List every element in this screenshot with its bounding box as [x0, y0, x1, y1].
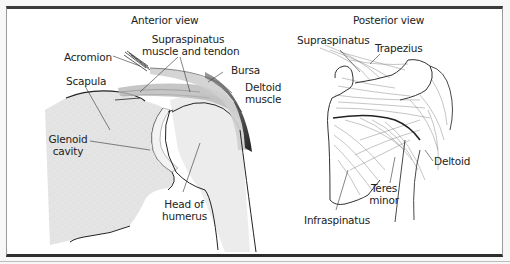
- label-glenoid-line2: cavity: [48, 145, 88, 157]
- label-supraspinatus-line2: muscle and tendon: [142, 45, 234, 57]
- shoulder-anatomy-illustration: [0, 0, 510, 264]
- figure-canvas: Anterior view Posterior view Acromion Su…: [0, 0, 510, 264]
- label-deltoid-muscle: Deltoid muscle: [245, 81, 281, 105]
- label-humerus-line2: humerus: [162, 210, 206, 222]
- label-supraspinatus-line1: Supraspinatus: [142, 33, 234, 45]
- label-deltoid-posterior: Deltoid: [434, 155, 470, 167]
- label-head-of-humerus: Head of humerus: [162, 198, 206, 222]
- label-humerus-line1: Head of: [162, 198, 206, 210]
- label-trapezius: Trapezius: [375, 42, 423, 54]
- label-bursa: Bursa: [231, 64, 260, 76]
- label-teres-line1: Teres: [368, 182, 400, 194]
- posterior-view-title: Posterior view: [353, 14, 424, 26]
- label-infraspinatus: Infraspinatus: [304, 214, 370, 226]
- label-supraspinatus-posterior: Supraspinatus: [297, 34, 370, 46]
- label-glenoid-line1: Glenoid: [48, 133, 88, 145]
- label-acromion: Acromion: [64, 51, 112, 63]
- label-deltoid-line1: Deltoid: [245, 81, 281, 93]
- label-teres-line2: minor: [368, 194, 400, 206]
- label-scapula: Scapula: [66, 75, 106, 87]
- label-supraspinatus-anterior: Supraspinatus muscle and tendon: [142, 33, 234, 57]
- label-teres-minor: Teres minor: [368, 182, 400, 206]
- label-glenoid-cavity: Glenoid cavity: [48, 133, 88, 157]
- label-deltoid-line2: muscle: [245, 93, 281, 105]
- anterior-view-title: Anterior view: [131, 14, 198, 26]
